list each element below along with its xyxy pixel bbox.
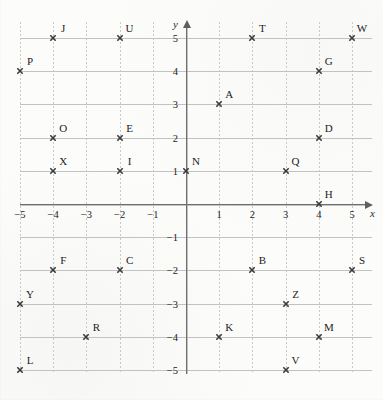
point-marker-z [282,300,289,307]
x-tick-label: −1 [147,209,158,220]
point-label-t: T [259,22,266,34]
point-marker-i [116,167,123,174]
point-marker-t [249,35,256,42]
x-tick-label: −3 [81,209,92,220]
point-marker-y [17,300,24,307]
point-label-m: M [324,321,334,333]
y-tick-label: −5 [162,365,178,376]
point-marker-v [282,367,289,374]
gridline-vertical [153,22,154,374]
point-label-o: O [59,122,67,134]
point-marker-u [116,35,123,42]
point-marker-c [116,267,123,274]
gridline-horizontal [20,38,372,39]
point-marker-k [216,333,223,340]
y-tick-label: 4 [162,66,178,77]
point-label-i: I [128,155,132,167]
x-tick-label: 1 [217,209,222,220]
point-label-b: B [259,254,266,266]
gridline-horizontal [20,104,372,105]
point-marker-m [315,333,322,340]
y-tick-label: −2 [162,265,178,276]
point-label-c: C [126,254,133,266]
point-label-n: N [192,155,200,167]
x-axis [20,204,365,205]
point-marker-e [116,134,123,141]
point-label-x: X [59,155,67,167]
point-label-j: J [61,22,65,34]
gridline-vertical [286,22,287,374]
point-marker-p [17,68,24,75]
y-tick-label: 1 [162,165,178,176]
point-label-u: U [126,22,134,34]
y-tick-label: 5 [162,33,178,44]
y-axis [186,27,187,374]
point-label-v: V [292,354,300,366]
point-label-k: K [225,321,233,333]
point-marker-w [349,35,356,42]
point-label-s: S [359,254,365,266]
point-marker-f [50,267,57,274]
y-tick-label: −3 [162,298,178,309]
point-marker-h [315,201,322,208]
x-tick-label: 5 [349,209,354,220]
point-label-l: L [27,354,34,366]
point-marker-q [282,167,289,174]
point-marker-d [315,134,322,141]
point-label-y: Y [26,288,34,300]
point-marker-x [50,167,57,174]
point-label-w: W [357,22,367,34]
gridline-horizontal [20,237,372,238]
gridline-vertical [319,22,320,374]
point-marker-j [50,35,57,42]
gridline-horizontal [20,270,372,271]
gridline-vertical [219,22,220,374]
point-marker-o [50,134,57,141]
gridline-horizontal [20,370,372,371]
x-tick-label: −2 [114,209,125,220]
point-marker-b [249,267,256,274]
x-tick-label: 2 [250,209,255,220]
point-marker-l [17,367,24,374]
point-label-g: G [325,55,333,67]
point-label-e: E [126,122,133,134]
y-axis-arrow-icon [183,20,191,28]
y-tick-label: 2 [162,132,178,143]
point-marker-a [216,101,223,108]
point-label-a: A [225,88,233,100]
gridline-horizontal [20,304,372,305]
y-axis-label: y [173,18,178,30]
point-label-q: Q [292,155,300,167]
x-tick-label: 3 [283,209,288,220]
point-marker-s [349,267,356,274]
gridline-vertical [20,22,21,374]
point-label-d: D [325,122,333,134]
x-tick-label: −5 [14,209,25,220]
gridline-horizontal [20,171,372,172]
point-label-p: P [27,55,33,67]
x-tick-label: −4 [48,209,59,220]
gridline-vertical [352,22,353,374]
gridline-vertical [252,22,253,374]
gridline-vertical [53,22,54,374]
x-tick-label: 4 [316,209,321,220]
point-label-f: F [60,254,66,266]
y-tick-label: −1 [162,232,178,243]
point-marker-r [83,333,90,340]
gridline-vertical [120,22,121,374]
point-marker-g [315,68,322,75]
point-label-r: R [93,321,100,333]
point-label-z: Z [292,288,299,300]
y-tick-label: −4 [162,331,178,342]
y-tick-label: 3 [162,99,178,110]
gridline-vertical [86,22,87,374]
point-marker-n [183,167,190,174]
coordinate-plane: x y −5−4−3−2−112345 54321−1−2−3−4−5 JUTW… [0,0,383,400]
x-axis-label: x [370,207,375,219]
point-label-h: H [325,188,333,200]
